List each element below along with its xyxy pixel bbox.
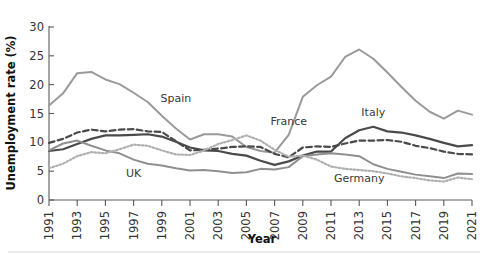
y-tick-label: 30 [29, 20, 44, 34]
y-axis-title: Unemployment rate (%) [4, 35, 18, 190]
x-tick-label: 1997 [127, 211, 141, 240]
series-line-germany [49, 135, 472, 181]
series-lines [49, 49, 472, 181]
x-tick-label: 2003 [211, 211, 225, 240]
unemployment-rate-line-chart: 051015202530 199119931995199719992001200… [0, 0, 488, 256]
x-tick-label: 2001 [183, 211, 197, 240]
x-axis-title: Year [247, 232, 277, 246]
series-label-uk: UK [126, 167, 142, 180]
y-tick-label: 5 [37, 164, 44, 178]
y-tick-label: 10 [29, 135, 44, 149]
x-tick-label: 2021 [465, 211, 479, 240]
series-label-germany: Germany [334, 172, 385, 185]
series-label-france: France [270, 115, 307, 128]
x-tick-label: 2019 [437, 211, 451, 240]
x-tick-label: 2013 [352, 211, 366, 240]
x-tick-label: 1999 [155, 211, 169, 240]
y-tick-label: 0 [37, 193, 44, 207]
series-label-spain: Spain [161, 92, 192, 105]
series-line-spain [49, 49, 472, 152]
x-tick-label: 2011 [324, 211, 338, 240]
x-tick-label: 1991 [42, 211, 56, 240]
series-line-italy [49, 127, 472, 165]
y-tick-label: 25 [29, 49, 44, 63]
x-tick-label: 2009 [296, 211, 310, 240]
x-tick-label: 1995 [98, 211, 112, 240]
y-tick-label: 20 [29, 78, 44, 92]
series-label-italy: Italy [361, 106, 385, 119]
x-tick-label: 2017 [409, 211, 423, 240]
x-tick-label: 1993 [70, 211, 84, 240]
chart-canvas: 051015202530 199119931995199719992001200… [0, 0, 488, 256]
x-tick-label: 2015 [380, 211, 394, 240]
y-axis-ticks: 051015202530 [29, 20, 54, 207]
y-tick-label: 15 [29, 107, 44, 121]
